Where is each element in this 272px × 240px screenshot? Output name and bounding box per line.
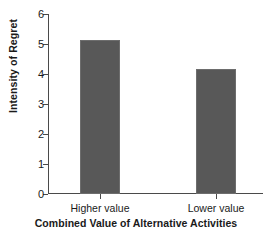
x-tick-0 [100,194,101,199]
bar-chart: Intensity of Regret 0 1 2 3 4 5 [0,0,272,240]
y-axis-line [48,14,49,194]
y-tick-label-2: 2 [38,128,44,140]
x-axis-title: Combined Value of Alternative Activities [0,217,272,229]
y-tick-label-6: 6 [38,8,44,20]
y-tick-label-4: 4 [38,68,44,80]
x-tick-1 [216,194,217,199]
y-axis-title: Intensity of Regret [7,1,19,131]
bar-lower-value [196,69,236,194]
y-tick-label-5: 5 [38,38,44,50]
y-tick-label-3: 3 [38,98,44,110]
y-tick-label-1: 1 [38,158,44,170]
plot-area: 0 1 2 3 4 5 6 H [48,14,263,194]
x-category-label-1: Lower value [188,202,245,214]
x-category-label-0: Higher value [71,202,130,214]
y-tick-label-0: 0 [38,188,44,200]
bar-higher-value [80,40,120,194]
